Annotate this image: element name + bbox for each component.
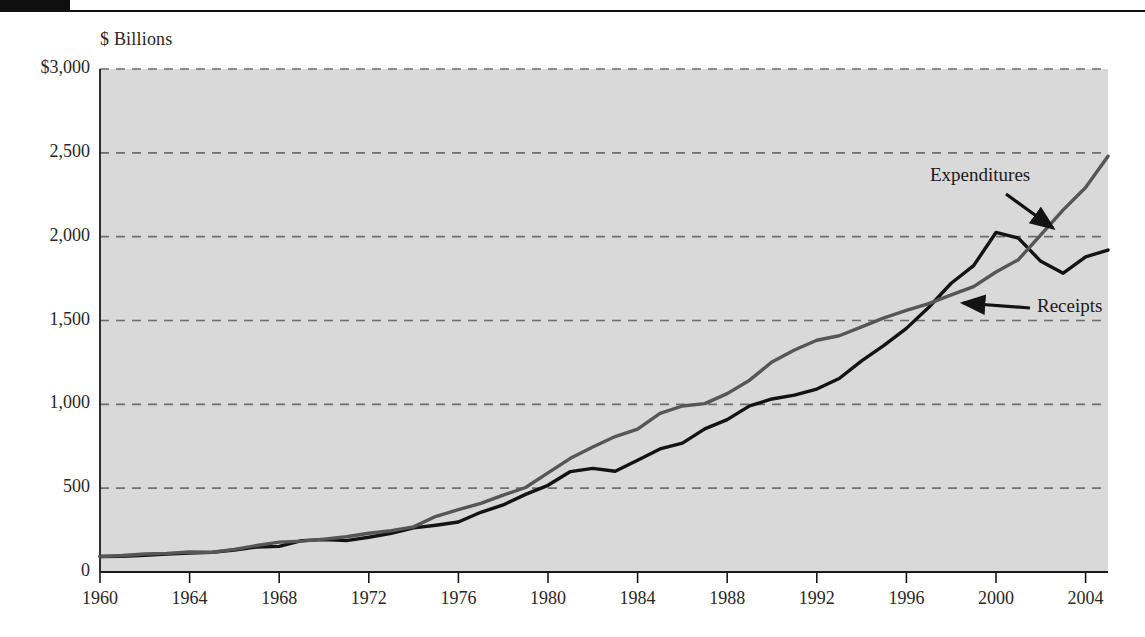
annotation-receipts: Receipts (1037, 295, 1102, 317)
x-tick-label: 1968 (244, 588, 314, 609)
x-tick-label: 1988 (692, 588, 762, 609)
y-tick-label: 0 (4, 560, 90, 581)
x-tick-label: 2000 (961, 588, 1031, 609)
y-tick-label: 1,000 (4, 392, 90, 413)
y-tick-label: 1,500 (4, 309, 90, 330)
x-tick-label: 1960 (65, 588, 135, 609)
x-tick-label: 1976 (423, 588, 493, 609)
y-tick-label: $3,000 (4, 57, 90, 78)
annotation-expenditures: Expenditures (930, 164, 1030, 186)
x-tick-label: 1992 (782, 588, 852, 609)
x-tick-label: 1984 (603, 588, 673, 609)
line-chart-plot (0, 0, 1145, 637)
y-tick-label: 2,500 (4, 141, 90, 162)
y-tick-label: 2,000 (4, 225, 90, 246)
x-tick-label: 1980 (513, 588, 583, 609)
x-tick-label: 1996 (871, 588, 941, 609)
x-tick-label: 1972 (334, 588, 404, 609)
x-tick-label: 2004 (1051, 588, 1121, 609)
y-tick-label: 500 (4, 476, 90, 497)
chart-figure: $ Billions $3,0002,5002,0001,5001,000500… (0, 0, 1145, 637)
x-tick-label: 1964 (155, 588, 225, 609)
